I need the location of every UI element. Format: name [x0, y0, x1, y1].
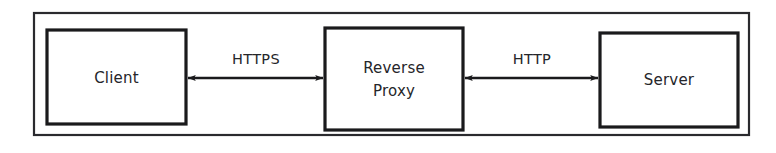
node-reverse-proxy-box — [325, 28, 463, 130]
edge-proxy-server-label: HTTP — [513, 51, 551, 67]
node-server-label: Server — [644, 71, 695, 89]
node-client-label: Client — [94, 69, 139, 87]
reverse-proxy-diagram: Client Reverse Proxy Server HTTPS HTTP — [0, 0, 776, 153]
node-reverse-proxy-label-line-2: Proxy — [373, 82, 415, 100]
diagram-canvas: Client Reverse Proxy Server HTTPS HTTP — [0, 0, 776, 153]
node-server: Server — [600, 33, 738, 127]
edge-proxy-server: HTTP — [465, 51, 598, 78]
edge-client-proxy-label: HTTPS — [232, 51, 280, 67]
node-client: Client — [47, 30, 186, 124]
edge-client-proxy: HTTPS — [188, 51, 323, 78]
node-reverse-proxy-label-line-1: Reverse — [363, 59, 425, 77]
node-reverse-proxy: Reverse Proxy — [325, 28, 463, 130]
